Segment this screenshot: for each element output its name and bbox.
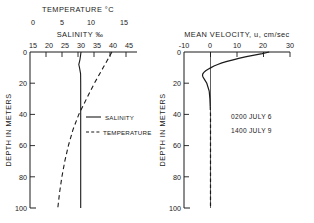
- left-depth-100: 100: [15, 204, 27, 213]
- right-depth-80: 80: [173, 173, 181, 182]
- velocity-axis-title: MEAN VELOCITY, u, cm/sec: [184, 30, 290, 39]
- temp-tick-15: 15: [120, 18, 128, 27]
- salinity-curve: [79, 52, 81, 208]
- mean-velocity-profile-panel: MEAN VELOCITY, u, cm/sec -10 0 10 20 30: [157, 0, 314, 223]
- vel-tick-0: 0: [208, 41, 212, 50]
- sal-tick-30: 30: [77, 41, 85, 50]
- right-depth-100: 100: [169, 204, 181, 213]
- temp-tick-5: 5: [60, 18, 64, 27]
- salinity-tick-labels: 15 20 25 30 35 40 45: [29, 41, 133, 50]
- left-depth-0: 0: [23, 48, 27, 57]
- left-depth-ticks: [30, 83, 35, 177]
- sal-tick-35: 35: [93, 41, 101, 50]
- temp-tick-10: 10: [87, 18, 95, 27]
- vel-tick-10: 10: [233, 41, 241, 50]
- left-depth-20: 20: [19, 79, 27, 88]
- velocity-tick-labels: -10 0 10 20 30: [179, 41, 294, 50]
- vel-tick-20: 20: [259, 41, 267, 50]
- annotation-line-1: 0200 JULY 6: [231, 113, 272, 120]
- sal-tick-20: 20: [45, 41, 53, 50]
- left-legend: SALINITY TEMPERATURE: [86, 114, 152, 136]
- salinity-temperature-profile-panel: TEMPERATURE °C 0 5 10 15 SALINITY ‰ 15 2…: [0, 0, 157, 223]
- left-depth-axis-label: DEPTH IN METERS: [4, 94, 13, 167]
- legend-salinity-label: SALINITY: [105, 114, 134, 121]
- temperature-tick-labels: 0 5 10 15: [31, 18, 128, 27]
- sal-tick-15: 15: [29, 41, 37, 50]
- left-depth-80: 80: [19, 173, 27, 182]
- sal-tick-40: 40: [109, 41, 117, 50]
- mean-velocity-curve-solid: [203, 52, 270, 107]
- station-time-annotation: 0200 JULY 6 1400 JULY 9: [231, 113, 272, 134]
- temp-tick-0: 0: [31, 18, 35, 27]
- legend-temperature-label: TEMPERATURE: [103, 129, 152, 136]
- vel-tick-30: 30: [286, 41, 294, 50]
- annotation-line-2: 1400 JULY 9: [231, 127, 272, 134]
- right-depth-axis-label: DEPTH IN METERS: [158, 94, 167, 167]
- oceanographic-profiles-figure: TEMPERATURE °C 0 5 10 15 SALINITY ‰ 15 2…: [0, 0, 314, 223]
- right-depth-0: 0: [177, 48, 181, 57]
- right-depth-20: 20: [173, 79, 181, 88]
- right-depth-60: 60: [173, 141, 181, 150]
- salinity-axis-title: SALINITY ‰: [57, 30, 104, 39]
- temperature-axis-title: TEMPERATURE °C: [42, 5, 114, 14]
- salinity-top-ticks: [46, 52, 126, 57]
- left-depth-40: 40: [19, 110, 27, 119]
- right-depth-40: 40: [173, 110, 181, 119]
- sal-tick-45: 45: [125, 41, 133, 50]
- left-depth-tick-labels: 0 20 40 60 80 100: [15, 48, 27, 213]
- right-depth-ticks: [184, 83, 189, 177]
- sal-tick-25: 25: [61, 41, 69, 50]
- left-depth-60: 60: [19, 141, 27, 150]
- right-depth-tick-labels: 0 20 40 60 80 100: [169, 48, 181, 213]
